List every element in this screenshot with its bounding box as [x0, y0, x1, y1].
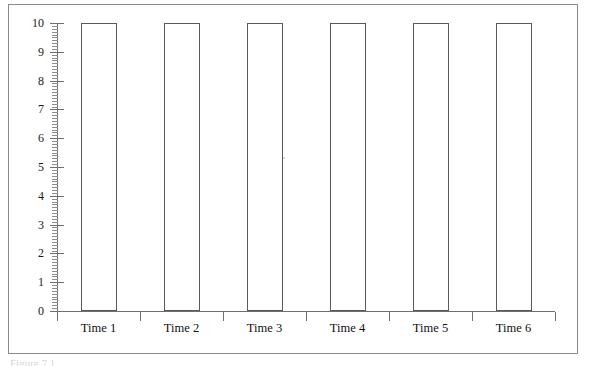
y-axis-minor-tick [52, 170, 58, 171]
y-axis-minor-tick [52, 107, 58, 108]
y-axis-tick-label: 7 [14, 103, 44, 115]
y-axis-minor-tick [52, 43, 58, 44]
y-axis-minor-tick [52, 130, 58, 131]
y-axis-minor-tick [52, 179, 58, 180]
x-axis-tick-label: Time 1 [57, 322, 140, 335]
y-axis-major-tick [50, 196, 64, 197]
y-axis-minor-tick [52, 242, 58, 243]
scan-speck-artifact [283, 157, 285, 159]
y-axis-minor-tick [52, 227, 58, 228]
y-axis-major-tick [50, 225, 64, 226]
bar-time-5 [413, 23, 449, 311]
y-axis-tick-label: 6 [14, 132, 44, 144]
y-axis-minor-tick [52, 187, 58, 188]
y-axis-minor-tick [52, 40, 58, 41]
y-axis-minor-tick [52, 193, 58, 194]
y-axis-minor-tick [52, 46, 58, 47]
y-axis-minor-tick [52, 202, 58, 203]
y-axis-minor-tick [52, 268, 58, 269]
y-axis-minor-tick [52, 190, 58, 191]
y-axis-minor-tick [52, 132, 58, 133]
x-axis-category-tick [389, 312, 390, 321]
y-axis-tick-label: 0 [14, 305, 44, 317]
x-axis-category-tick [472, 312, 473, 321]
y-axis-major-tick [50, 138, 64, 139]
y-axis-minor-tick [52, 216, 58, 217]
y-axis-tick-label: 1 [14, 276, 44, 288]
y-axis-minor-tick [52, 32, 58, 33]
y-axis-minor-tick [52, 66, 58, 67]
bar-chart: 012345678910 Time 1Time 2Time 3Time 4Tim… [0, 0, 589, 366]
y-axis-minor-tick [52, 153, 58, 154]
y-axis-major-tick [50, 81, 64, 82]
y-axis-minor-tick [52, 37, 58, 38]
y-axis-minor-tick [52, 173, 58, 174]
y-axis-minor-tick [52, 276, 58, 277]
y-axis-minor-tick [52, 147, 58, 148]
y-axis-minor-tick [52, 285, 58, 286]
y-axis-major-tick [50, 167, 64, 168]
y-axis-minor-tick [52, 98, 58, 99]
y-axis-minor-tick [52, 207, 58, 208]
figure-caption: Figure 7.1 [10, 357, 55, 366]
x-axis-tick-label: Time 2 [140, 322, 223, 335]
y-axis-major-tick [50, 253, 64, 254]
y-axis-minor-tick [52, 294, 58, 295]
y-axis-tick-label: 2 [14, 247, 44, 259]
x-axis-category-tick [57, 312, 58, 321]
y-axis-minor-tick [52, 184, 58, 185]
x-axis-category-tick [140, 312, 141, 321]
y-axis-minor-tick [52, 60, 58, 61]
y-axis-minor-tick [52, 288, 58, 289]
y-axis-minor-tick [52, 115, 58, 116]
y-axis-minor-tick [52, 219, 58, 220]
y-axis-minor-tick [52, 141, 58, 142]
y-axis-minor-tick [52, 265, 58, 266]
x-axis-tick-label: Time 3 [223, 322, 306, 335]
y-axis-minor-tick [52, 233, 58, 234]
y-axis-minor-tick [52, 121, 58, 122]
y-axis-minor-tick [52, 92, 58, 93]
y-axis-minor-tick [52, 124, 58, 125]
x-axis-category-tick [306, 312, 307, 321]
bar-time-3 [247, 23, 283, 311]
y-axis-minor-tick [52, 63, 58, 64]
y-axis-minor-tick [52, 72, 58, 73]
y-axis-minor-tick [52, 210, 58, 211]
y-axis-minor-tick [52, 230, 58, 231]
y-axis-minor-tick [52, 291, 58, 292]
y-axis-minor-tick [52, 222, 58, 223]
bar-time-2 [164, 23, 200, 311]
y-axis-tick-label: 9 [14, 46, 44, 58]
bar-time-6 [496, 23, 532, 311]
y-axis-minor-tick [52, 112, 58, 113]
y-axis-minor-tick [52, 297, 58, 298]
y-axis-minor-tick [52, 236, 58, 237]
y-axis-minor-tick [52, 248, 58, 249]
y-axis-tick-label: 5 [14, 161, 44, 173]
y-axis-minor-tick [52, 75, 58, 76]
y-axis-minor-tick [52, 245, 58, 246]
y-axis-tick-label: 4 [14, 190, 44, 202]
y-axis-minor-tick [52, 118, 58, 119]
y-axis-minor-tick [52, 49, 58, 50]
bar-time-1 [81, 23, 117, 311]
y-axis-major-tick [50, 23, 64, 24]
y-axis-minor-tick [52, 262, 58, 263]
y-axis-major-tick [50, 52, 64, 53]
y-axis-minor-tick [52, 239, 58, 240]
y-axis-minor-tick [52, 213, 58, 214]
y-axis-minor-tick [52, 259, 58, 260]
y-axis-major-tick [50, 282, 64, 283]
y-axis-minor-tick [52, 279, 58, 280]
y-axis-minor-tick [52, 150, 58, 151]
y-axis-minor-tick [52, 29, 58, 30]
x-axis-tick-label: Time 5 [389, 322, 472, 335]
y-axis-minor-tick [52, 181, 58, 182]
y-axis-minor-tick [52, 176, 58, 177]
y-axis-minor-tick [52, 308, 58, 309]
y-axis-minor-tick [52, 302, 58, 303]
y-axis-minor-tick [52, 86, 58, 87]
y-axis-minor-tick [52, 274, 58, 275]
x-axis-tick-label: Time 6 [472, 322, 555, 335]
